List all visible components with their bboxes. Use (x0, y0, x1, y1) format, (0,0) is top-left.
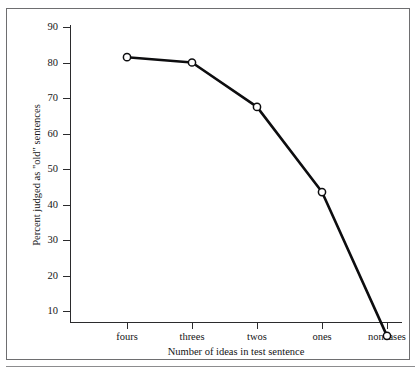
data-point-marker (188, 59, 195, 66)
x-axis-title: Number of ideas in test sentence (70, 346, 402, 358)
y-axis-title: Percent judged as "old" sentences (30, 77, 44, 273)
plot-area: 102030405060708090 foursthreestwosonesno… (0, 0, 419, 374)
data-point-marker (318, 188, 325, 195)
series-markers (123, 54, 390, 340)
y-axis-title-text: Percent judged as "old" sentences (30, 77, 44, 273)
data-series (0, 0, 419, 374)
data-point-marker (383, 332, 390, 339)
data-point-marker (123, 54, 130, 61)
series-line (127, 57, 387, 336)
chart-page: 102030405060708090 foursthreestwosonesno… (0, 0, 419, 374)
data-point-marker (253, 103, 260, 110)
